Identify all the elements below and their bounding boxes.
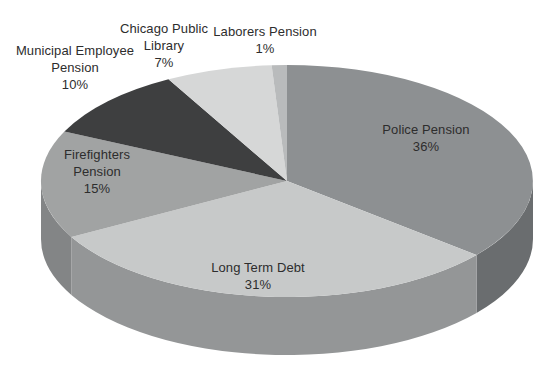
label-pct: 10% xyxy=(10,76,140,93)
label-laborers-pension: Laborers Pension 1% xyxy=(200,23,330,57)
label-firefighters-pension: Firefighters Pension 15% xyxy=(52,146,142,197)
label-pct: 15% xyxy=(52,180,142,197)
label-pct: 31% xyxy=(188,276,328,293)
label-long-term-debt: Long Term Debt 31% xyxy=(188,259,328,293)
label-text: Long Term Debt xyxy=(188,259,328,276)
label-police-pension: Police Pension 36% xyxy=(366,121,486,155)
label-pct: 36% xyxy=(366,138,486,155)
label-pct: 1% xyxy=(200,40,330,57)
label-text: Firefighters Pension xyxy=(52,146,142,180)
label-text: Laborers Pension xyxy=(200,23,330,40)
label-text: Police Pension xyxy=(366,121,486,138)
pie-chart-figure: Municipal Employee Pension 10% Chicago P… xyxy=(0,0,554,385)
